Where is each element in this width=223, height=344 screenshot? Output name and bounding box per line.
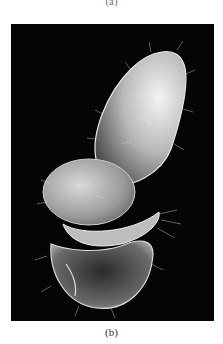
panel-a-label: (a) xyxy=(0,0,223,7)
panel-b-label: (b) xyxy=(0,326,223,338)
micrograph-organism-illustration xyxy=(11,24,214,321)
middle-lobe xyxy=(43,159,135,225)
micrograph-panel-b xyxy=(11,24,214,321)
lower-lorica xyxy=(51,241,153,308)
